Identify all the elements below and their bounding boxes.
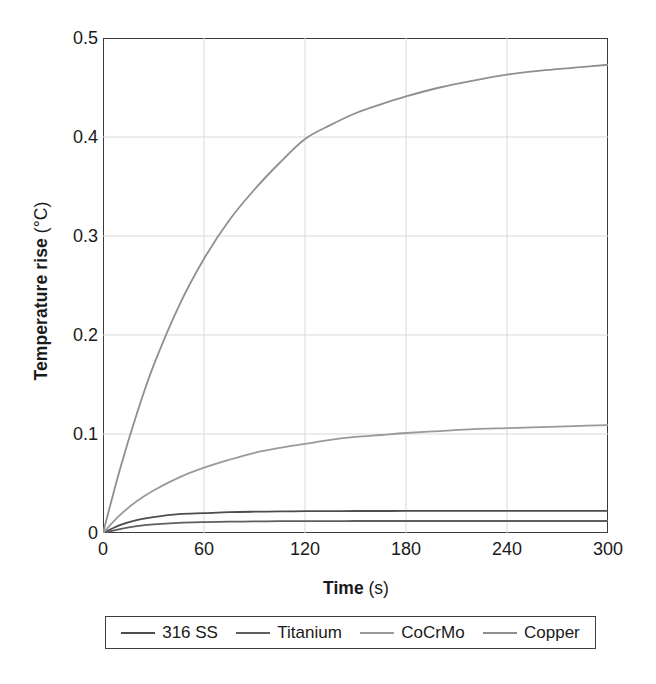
legend-label: Copper bbox=[524, 624, 580, 641]
x-tick-label: 120 bbox=[270, 540, 340, 558]
series-line-copper bbox=[103, 65, 608, 533]
legend-label: CoCrMo bbox=[401, 624, 464, 641]
legend-entry[interactable]: Copper bbox=[483, 624, 580, 641]
legend-entry[interactable]: 316 SS bbox=[121, 624, 218, 641]
legend-label: 316 SS bbox=[162, 624, 218, 641]
chart-figure: Temperature rise (°C) 00.10.20.30.40.5 0… bbox=[0, 0, 656, 684]
series-lines bbox=[103, 65, 608, 533]
x-axis-title-text: Time bbox=[323, 578, 364, 598]
legend-line-swatch bbox=[483, 632, 517, 634]
legend-line-swatch bbox=[121, 632, 155, 634]
x-axis-title: Time (s) bbox=[103, 578, 609, 599]
x-tick-label: 300 bbox=[573, 540, 643, 558]
series-line-cocrmo bbox=[103, 425, 608, 533]
gridlines bbox=[103, 38, 608, 533]
legend-label: Titanium bbox=[277, 624, 342, 641]
x-tick-label: 240 bbox=[472, 540, 542, 558]
x-tick-label: 0 bbox=[68, 540, 138, 558]
legend-line-swatch bbox=[236, 632, 270, 634]
chart-legend: 316 SSTitaniumCoCrMoCopper bbox=[105, 616, 596, 649]
x-axis-title-unit: (s) bbox=[364, 578, 389, 598]
plot-canvas bbox=[103, 38, 608, 533]
legend-line-swatch bbox=[360, 632, 394, 634]
series-line-titanium bbox=[103, 521, 608, 533]
x-tick-label: 180 bbox=[371, 540, 441, 558]
legend-entry[interactable]: CoCrMo bbox=[360, 624, 464, 641]
legend-entry[interactable]: Titanium bbox=[236, 624, 342, 641]
x-tick-label: 60 bbox=[169, 540, 239, 558]
